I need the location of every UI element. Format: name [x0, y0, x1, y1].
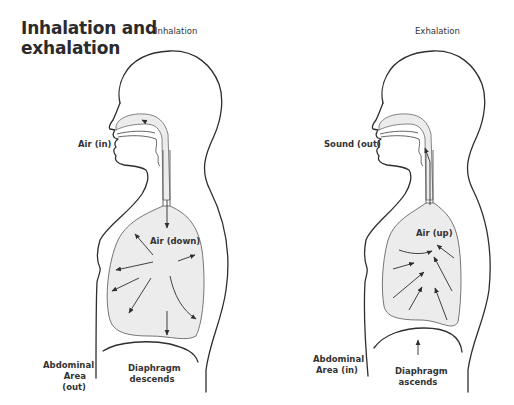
exhalation-heading: Exhalation: [415, 26, 460, 36]
abdomen-label-line-1: Abdominal: [313, 354, 358, 365]
exhalation-lung-label: Air (up): [416, 228, 453, 239]
diaphragm-label-line-1: Diaphragm: [395, 366, 441, 377]
inhalation-heading: Inhalation: [155, 26, 197, 36]
exhalation-figure: [364, 51, 490, 392]
diaphragm-label-line-2: ascends: [395, 377, 441, 388]
inhalation-diaphragm-label: Diaphragm descends: [128, 363, 176, 385]
inhalation-mouth-label: Air (in): [78, 139, 111, 150]
inhalation-lung-label: Air (down): [150, 236, 200, 247]
exhalation-lung: [382, 203, 461, 326]
exhalation-diaphragm-label: Diaphragm ascends: [395, 366, 441, 388]
diaphragm-label-line-1: Diaphragm: [128, 363, 176, 374]
exhalation-abdomen-label: Abdominal Area (in): [313, 354, 358, 376]
exhalation-mouth-label: Sound (out): [324, 139, 381, 150]
inhalation-nasal-passage: [116, 114, 170, 200]
abdomen-label-line-2: Area (in): [313, 365, 358, 376]
diaphragm-label-line-2: descends: [128, 374, 176, 385]
inhalation-lung: [107, 206, 204, 339]
exhalation-nasal-passage: [379, 114, 433, 200]
abdomen-label-line-2: Area (out): [43, 371, 86, 393]
inhalation-diaphragm: [103, 342, 198, 362]
breathing-diagram: [0, 0, 514, 405]
inhalation-figure: [96, 51, 228, 392]
abdomen-label-line-1: Abdominal: [43, 360, 86, 371]
inhalation-abdomen-label: Abdominal Area (out): [43, 360, 86, 393]
